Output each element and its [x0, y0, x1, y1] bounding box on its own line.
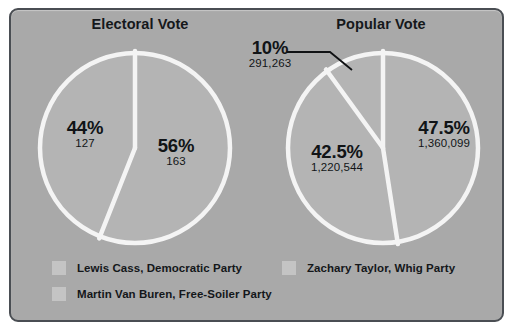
legend-label-vanburen: Martin Van Buren, Free-Soiler Party: [77, 288, 272, 300]
chart-title-electoral: Electoral Vote: [62, 16, 218, 32]
electoral-slice-label-taylor: 56% 163: [138, 136, 214, 168]
legend-label-taylor: Zachary Taylor, Whig Party: [307, 262, 455, 274]
legend-item-vanburen: Martin Van Buren, Free-Soiler Party: [52, 287, 272, 301]
infographic-root: Electoral Vote Popular Vote 44% 127 56% …: [0, 0, 515, 335]
popular-slice-label-cass: 42.5% 1,220,544: [286, 142, 388, 174]
electoral-cass-value: 127: [45, 137, 125, 150]
popular-cass-value: 1,220,544: [286, 161, 388, 174]
legend-item-taylor: Zachary Taylor, Whig Party: [282, 261, 455, 275]
popular-vanburen-percent: 10%: [228, 38, 312, 57]
popular-slice-label-taylor: 47.5% 1,360,099: [394, 118, 494, 150]
legend-swatch-icon-vanburen: [52, 287, 66, 301]
popular-taylor-percent: 47.5%: [394, 118, 494, 137]
electoral-cass-percent: 44%: [45, 118, 125, 137]
popular-cass-percent: 42.5%: [286, 142, 388, 161]
electoral-taylor-percent: 56%: [138, 136, 214, 155]
chart-legend: Lewis Cass, Democratic Party Zachary Tay…: [0, 255, 515, 317]
electoral-slice-label-cass: 44% 127: [45, 118, 125, 150]
legend-swatch-icon-cass: [52, 261, 66, 275]
legend-swatch-icon-taylor: [282, 261, 296, 275]
popular-slice-label-vanburen: 10% 291,263: [228, 38, 312, 70]
legend-label-cass: Lewis Cass, Democratic Party: [77, 262, 242, 274]
popular-taylor-value: 1,360,099: [394, 137, 494, 150]
popular-vanburen-value: 291,263: [228, 57, 312, 70]
chart-title-popular: Popular Vote: [303, 16, 459, 32]
legend-item-cass: Lewis Cass, Democratic Party: [52, 261, 242, 275]
electoral-taylor-value: 163: [138, 155, 214, 168]
